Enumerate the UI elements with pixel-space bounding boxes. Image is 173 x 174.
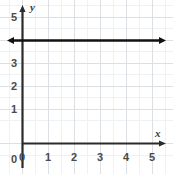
x-axis-arrow-icon bbox=[159, 140, 166, 146]
series-arrow-right-icon bbox=[159, 37, 166, 44]
x-axis bbox=[23, 140, 167, 146]
y-tick-label-1: 1 bbox=[5, 104, 17, 115]
y-axis-name-label: y bbox=[30, 2, 35, 13]
y-tick-label-3: 3 bbox=[5, 58, 17, 69]
y-tick-label-5: 5 bbox=[5, 12, 17, 23]
y-tick-label-2: 2 bbox=[5, 81, 17, 92]
y-tick-label-0: 0 bbox=[5, 154, 17, 165]
series-line-y-equals-4 bbox=[7, 37, 166, 44]
axes-and-series-layer bbox=[0, 0, 173, 174]
x-tick-label-0: 0 bbox=[19, 152, 25, 163]
x-tick-label-4: 4 bbox=[123, 152, 129, 163]
x-tick-label-3: 3 bbox=[97, 152, 103, 163]
x-tick-label-2: 2 bbox=[71, 152, 77, 163]
series-arrow-left-icon bbox=[7, 37, 14, 44]
x-axis-name-label: x bbox=[155, 128, 161, 139]
y-axis-arrow-icon bbox=[19, 5, 25, 12]
coordinate-plane-graph: 0 1 2 3 4 5 5 3 2 1 0 y x bbox=[0, 0, 173, 174]
x-tick-label-1: 1 bbox=[45, 152, 51, 163]
x-tick-label-5: 5 bbox=[149, 152, 155, 163]
